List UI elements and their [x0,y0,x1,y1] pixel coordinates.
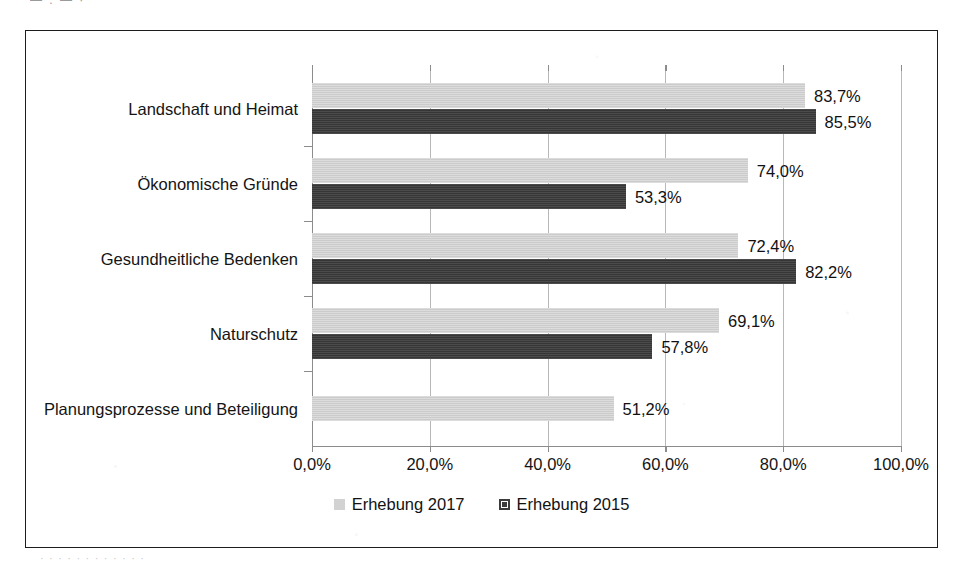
bar-2015 [312,109,816,134]
category-tick [304,146,312,147]
x-axis-tick [312,446,313,452]
chart-legend: Erhebung 2017Erhebung 2015 [26,496,937,513]
bar-2017 [312,83,805,108]
x-axis-tick-label: 40,0% [524,456,571,473]
x-axis-tick-label: 0,0% [293,456,331,473]
legend-label: Erhebung 2017 [352,496,465,513]
category-tick [304,371,312,372]
x-axis-tick [665,446,666,452]
x-axis-tick-label: 80,0% [760,456,807,473]
category-axis-labels: Landschaft und HeimatÖkonomische GründeG… [26,31,298,547]
bar-2017 [312,308,719,333]
legend-swatch-icon [334,499,345,510]
bar-2015 [312,184,626,209]
x-axis-tick-top [665,65,666,71]
x-axis-tick-top [312,65,313,71]
x-axis-tick [783,446,784,452]
bar-value-label: 83,7% [814,88,861,105]
x-axis-tick-top [548,65,549,71]
category-label: Landschaft und Heimat [128,101,298,118]
bar-2015 [312,259,796,284]
top-scan-artifact: — . — · [30,0,330,14]
x-axis-tick-label: 20,0% [406,456,453,473]
bar-2017 [312,158,748,183]
x-axis-tick-top [430,65,431,71]
bar-value-label: 69,1% [728,313,775,330]
bar-value-label: 72,4% [747,238,794,255]
bar-value-label: 82,2% [805,264,852,281]
x-axis-tick-top [783,65,784,71]
legend-entry: Erhebung 2017 [334,496,465,513]
x-axis-tick-label: 60,0% [642,456,689,473]
bar-value-label: 53,3% [635,189,682,206]
bar-value-label: 85,5% [825,114,872,131]
x-axis-tick [548,446,549,452]
x-axis-line [312,446,901,447]
bar-value-label: 51,2% [623,401,670,418]
legend-entry: Erhebung 2015 [499,496,630,513]
bottom-scan-artifact: · · · · · · · · · · · · [40,556,940,569]
legend-swatch-icon [499,499,510,510]
bar-value-label: 57,8% [661,339,708,356]
x-axis-tick-top [901,65,902,71]
chart-frame: Landschaft und HeimatÖkonomische GründeG… [25,30,938,548]
x-axis-tick [901,446,902,452]
plot-area [312,71,901,446]
category-tick [304,221,312,222]
category-label: Ökonomische Gründe [138,176,299,193]
x-axis-tick-label: 100,0% [873,456,929,473]
category-label: Planungsprozesse und Beteiligung [44,401,298,418]
bar-value-label: 74,0% [757,163,804,180]
bar-2017 [312,233,738,258]
x-axis-tick [430,446,431,452]
gridline-100 [901,71,902,446]
legend-label: Erhebung 2015 [517,496,630,513]
category-label: Gesundheitliche Bedenken [101,251,298,268]
category-tick [304,296,312,297]
category-label: Naturschutz [210,326,298,343]
bar-2017 [312,396,614,421]
bar-2015 [312,334,652,359]
